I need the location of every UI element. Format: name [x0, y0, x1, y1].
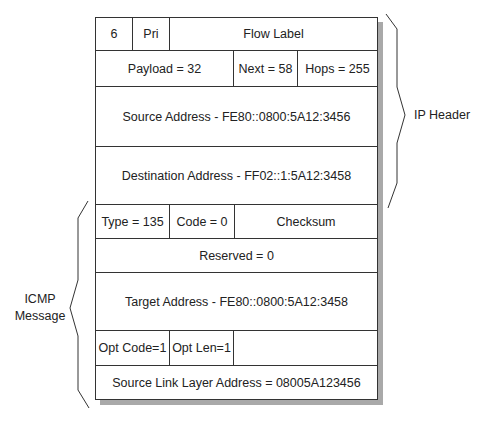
icmp-message-brace: [70, 201, 89, 408]
ip-header-label: IP Header: [414, 107, 470, 124]
brackets: [0, 0, 482, 421]
icmp-label-line1: ICMP: [12, 291, 68, 308]
icmp-label-line2: Message: [12, 308, 68, 325]
ip-header-brace: [386, 14, 405, 208]
icmp-message-label: ICMP Message: [12, 291, 68, 325]
